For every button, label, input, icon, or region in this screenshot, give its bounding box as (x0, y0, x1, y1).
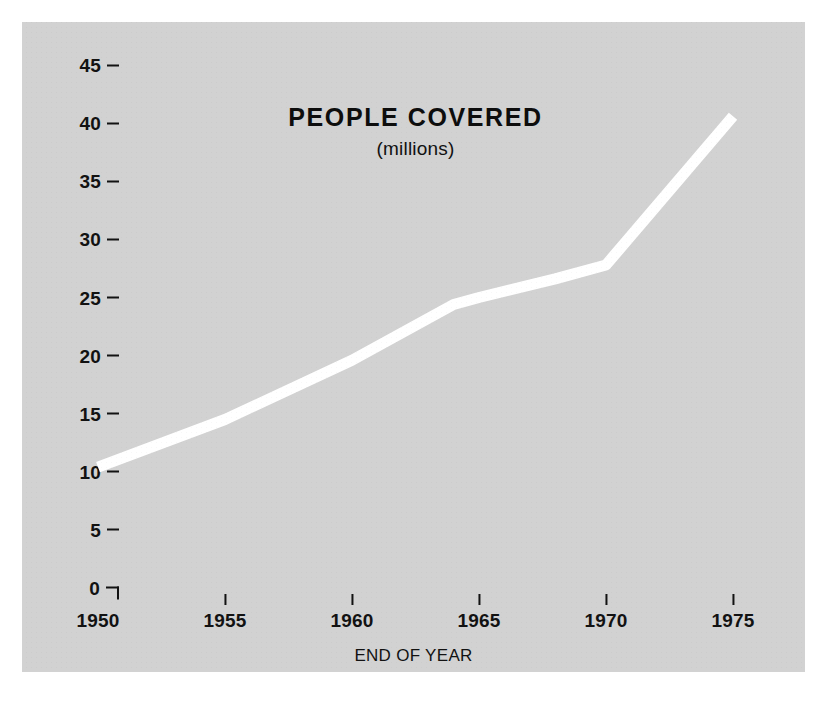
x-axis-tick-label: 1955 (203, 611, 246, 630)
x-axis-tick: 1975 (711, 594, 754, 630)
x-axis-tick-label: 1970 (584, 611, 627, 630)
x-axis-tick-label: 1950 (76, 611, 119, 630)
x-axis-title: END OF YEAR (22, 646, 805, 666)
x-axis-tick-label: 1975 (711, 611, 754, 630)
x-axis-tick-mark (478, 594, 480, 605)
x-axis-tick: 1960 (330, 594, 373, 630)
x-axis-tick-mark (224, 594, 226, 605)
chart-plot-panel: PEOPLE COVERED (millions) 05101520253035… (22, 22, 805, 672)
x-axis-tick: 1965 (457, 594, 500, 630)
x-axis-tick-label: 1965 (457, 611, 500, 630)
x-axis-tick: 1950 (76, 594, 119, 630)
x-axis-tick-mark (732, 594, 734, 605)
x-axis-tick-label: 1960 (330, 611, 373, 630)
chart-figure: PEOPLE COVERED (millions) 05101520253035… (0, 0, 825, 711)
x-axis-tick-mark (351, 594, 353, 605)
x-axis-tick: 1970 (584, 594, 627, 630)
x-axis: 195019551960196519701975 (22, 22, 805, 672)
x-axis-tick-mark (605, 594, 607, 605)
x-axis-tick: 1955 (203, 594, 246, 630)
